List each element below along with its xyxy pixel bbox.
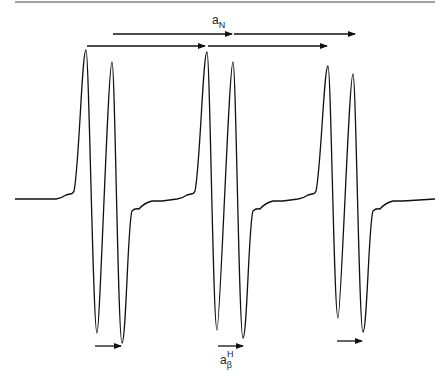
label-a-h-sup: H	[227, 349, 234, 359]
spectrum-trace	[15, 50, 435, 343]
label-a-h-base: a	[220, 353, 227, 367]
epr-spectrum-figure	[0, 0, 446, 376]
label-a-n-base: a	[212, 13, 219, 27]
label-a-h-sub: β	[227, 360, 232, 370]
label-a-n: aN	[212, 14, 225, 26]
label-a-beta-h: aβH	[220, 354, 238, 366]
label-a-n-sub: N	[219, 20, 226, 30]
